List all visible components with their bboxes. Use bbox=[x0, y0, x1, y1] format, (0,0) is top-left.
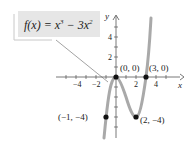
x-axis-label: x bbox=[177, 80, 182, 90]
point-label: (3, 0) bbox=[149, 63, 169, 73]
point-3-0 bbox=[143, 74, 148, 79]
point-label: (2, −4) bbox=[140, 115, 165, 125]
x-tick-label: −2 bbox=[92, 80, 101, 89]
point-2-neg4 bbox=[133, 114, 138, 119]
point-label: (−1, −4) bbox=[58, 112, 88, 122]
point-origin bbox=[113, 74, 118, 79]
y-axis-label: y bbox=[104, 11, 109, 21]
x-tick-label: 2 bbox=[134, 80, 138, 89]
function-graph: f(x) = x3 − 3x2 −4 −2 2 4 x 4 2 y bbox=[0, 0, 196, 146]
y-tick-label: 4 bbox=[108, 33, 112, 42]
point-label: (0, 0) bbox=[120, 63, 140, 73]
y-tick-label: 2 bbox=[108, 53, 112, 62]
x-tick-label: −4 bbox=[73, 80, 82, 89]
label-leader-line bbox=[56, 40, 108, 82]
function-label: f(x) = x3 − 3x2 bbox=[24, 18, 93, 32]
point-neg1-neg4 bbox=[103, 114, 108, 119]
x-tick-label: 4 bbox=[154, 80, 158, 89]
